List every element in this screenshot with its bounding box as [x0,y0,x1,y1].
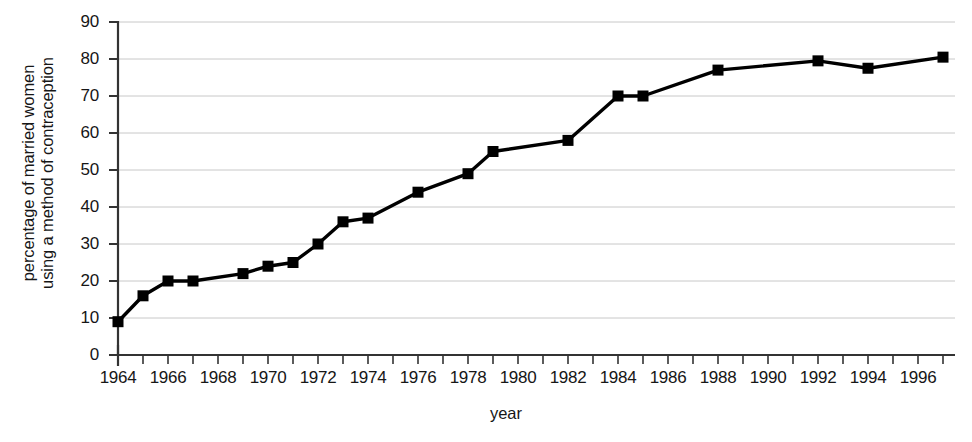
line-chart-figure: percentage of married women using a meth… [0,0,972,442]
x-axis-tick-label: 1996 [883,368,953,388]
x-axis-title: year [0,404,972,423]
x-axis-title-text: year [490,404,522,422]
x-axis-tick-labels: 1964196619681970197219741976197819801982… [0,0,972,442]
